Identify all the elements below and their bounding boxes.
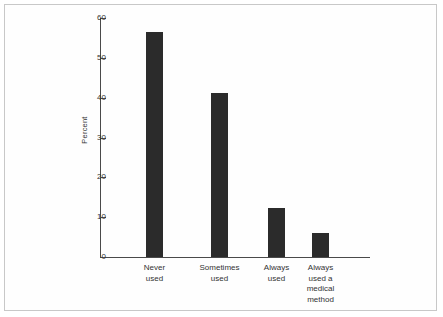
x-axis-line bbox=[100, 257, 370, 258]
y-axis-tick-label: 60 bbox=[66, 14, 106, 22]
y-axis-tick-label-text: 10 bbox=[80, 213, 106, 221]
bar bbox=[211, 93, 228, 258]
y-axis-tick-label: 10 bbox=[66, 213, 106, 221]
y-axis-tick-label: 50 bbox=[66, 54, 106, 62]
y-axis-tick-label: 20 bbox=[66, 173, 106, 181]
bar bbox=[268, 208, 285, 257]
y-axis-tick-label-text: 20 bbox=[80, 173, 106, 181]
figure: Percent 0102030405060 Never usedSometime… bbox=[0, 0, 443, 317]
bar bbox=[312, 233, 329, 257]
y-axis-tick-label: 40 bbox=[66, 94, 106, 102]
bar-chart-plot: Percent 0102030405060 Never usedSometime… bbox=[0, 0, 443, 317]
y-axis-tick-label-text: 50 bbox=[80, 54, 106, 62]
y-axis-tick-label: 30 bbox=[66, 134, 106, 142]
x-axis-category-label: Always used a medical method bbox=[281, 263, 361, 305]
y-axis-tick-label-text: 60 bbox=[80, 14, 106, 22]
y-axis-tick-label-text: 30 bbox=[80, 134, 106, 142]
y-axis-tick-label-text: 0 bbox=[80, 253, 106, 261]
y-axis-tick-label: 0 bbox=[66, 253, 106, 261]
y-axis-tick-label-text: 40 bbox=[80, 94, 106, 102]
bar bbox=[146, 32, 163, 257]
